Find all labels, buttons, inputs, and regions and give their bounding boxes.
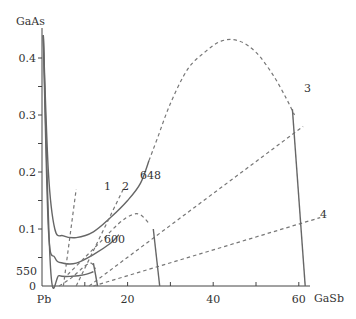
- annotation-2: 2: [122, 180, 129, 193]
- x-tick-label: 20: [121, 293, 135, 306]
- series-648: [43, 35, 149, 238]
- x-axis-label: GaSb: [314, 292, 344, 305]
- y-ticks: 00.10.20.30.4: [19, 52, 43, 293]
- x-tick-label: 40: [206, 293, 220, 306]
- series-tie-line-3: [89, 126, 303, 286]
- series-tie-line-4: [93, 218, 320, 286]
- annotation-3: 3: [304, 82, 311, 95]
- annotation-4: 4: [320, 208, 327, 221]
- chart-canvas: 00.10.20.30.4 Pb204060 GaAs GaSb 1234550…: [0, 0, 356, 319]
- annotation-1: 1: [104, 180, 111, 193]
- y-tick-label: 0.2: [19, 166, 37, 179]
- series-liquidus-boundary: [149, 39, 295, 160]
- series-solidus-600: [153, 229, 159, 286]
- series-phase-boundary-550: [59, 263, 95, 286]
- annotation-600: 600: [104, 233, 125, 246]
- annotation-648: 648: [140, 169, 161, 182]
- series-group: [43, 35, 320, 288]
- y-tick-label: 0.1: [19, 223, 37, 236]
- series-solidus-550: [93, 263, 97, 286]
- x-tick-label: Pb: [37, 293, 51, 306]
- y-tick-label: 0: [29, 280, 36, 293]
- x-tick-label: 60: [292, 293, 306, 306]
- axes: [42, 28, 310, 286]
- y-tick-label: 0.4: [19, 52, 37, 65]
- annotations: 1234550600648: [16, 82, 327, 278]
- annotation-550: 550: [16, 265, 37, 278]
- series-solidus-650: [292, 109, 305, 286]
- y-axis-label: GaAs: [16, 15, 45, 28]
- y-tick-label: 0.3: [19, 109, 37, 122]
